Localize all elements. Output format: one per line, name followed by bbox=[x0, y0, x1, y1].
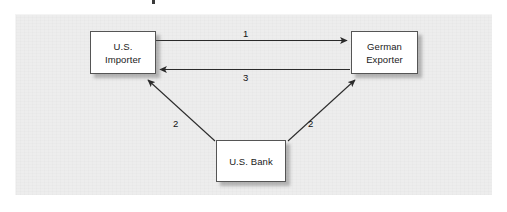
edge-2-bank-to-importer bbox=[148, 80, 215, 141]
node-german-exporter-line-1: German bbox=[367, 40, 402, 53]
node-german-exporter[interactable]: German Exporter bbox=[351, 31, 418, 74]
edge-label-2-right: 2 bbox=[308, 118, 313, 129]
cropped-text-fragment-icon bbox=[152, 0, 155, 4]
edge-label-3: 3 bbox=[243, 72, 248, 83]
diagram-canvas: U.S. Importer German Exporter U.S. Bank … bbox=[0, 0, 507, 212]
node-german-exporter-line-2: Exporter bbox=[366, 53, 403, 66]
node-us-importer-line-1: U.S. bbox=[114, 40, 133, 53]
edge-label-2-left: 2 bbox=[173, 118, 178, 129]
node-us-bank[interactable]: U.S. Bank bbox=[216, 140, 286, 182]
node-us-importer-line-2: Importer bbox=[105, 53, 141, 66]
edge-2-bank-to-exporter bbox=[288, 80, 355, 141]
node-us-bank-line-1: U.S. Bank bbox=[229, 155, 273, 168]
edge-label-1: 1 bbox=[243, 28, 248, 39]
node-us-importer[interactable]: U.S. Importer bbox=[90, 31, 156, 74]
